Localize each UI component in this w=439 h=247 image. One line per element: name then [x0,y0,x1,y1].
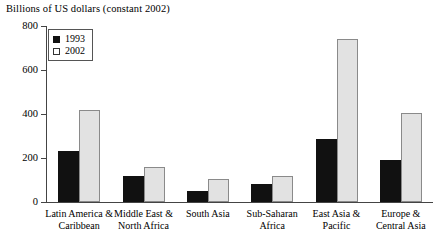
filled-square-icon [53,36,60,43]
legend-item-1993: 1993 [53,33,85,45]
legend-label-2002: 2002 [65,46,85,56]
chart-title: Billions of US dollars (constant 2002) [6,3,170,15]
legend-label-1993: 1993 [65,34,85,44]
y-axis-label-400-wrap: 400 [0,109,38,119]
bar-1993 [187,191,208,202]
bar-2002 [144,167,165,202]
chart-legend: 1993 2002 [48,29,93,61]
x-axis-line [46,202,433,203]
bar-group [187,26,229,202]
bar-1993 [123,176,144,202]
y-axis-label-600: 600 [4,65,38,75]
bar-2002 [272,176,293,202]
y-axis-tick-200 [41,158,46,159]
legend-item-2002: 2002 [53,45,85,57]
bar-1993 [380,160,401,202]
x-axis-category-label: Europe & Central Asia [361,208,439,231]
bar-group [316,26,358,202]
y-axis-label-400: 400 [4,109,38,119]
bar-2002 [337,39,358,202]
bar-group [123,26,165,202]
plot-area [47,26,433,202]
bar-2002 [401,113,422,202]
bar-1993 [251,184,272,202]
y-axis-tick-0 [41,202,46,203]
y-axis-label-0-wrap: 0 [0,197,38,207]
bar-2002 [79,110,100,202]
y-axis-label-0: 0 [4,197,38,207]
y-axis-label-800-wrap: 800 [0,21,38,31]
y-axis-label-800: 800 [4,21,38,31]
y-axis-tick-400 [41,114,46,115]
bar-group [380,26,422,202]
bar-1993 [316,139,337,202]
y-axis-label-600-wrap: 600 [0,65,38,75]
hollow-square-icon [53,48,60,55]
bar-2002 [208,179,229,202]
y-axis-label-200-wrap: 200 [0,153,38,163]
y-axis-tick-600 [41,70,46,71]
y-axis-label-200: 200 [4,153,38,163]
bar-1993 [58,151,79,202]
bar-group [251,26,293,202]
y-axis-tick-800 [41,26,46,27]
bar-chart: Billions of US dollars (constant 2002) 8… [0,0,439,247]
